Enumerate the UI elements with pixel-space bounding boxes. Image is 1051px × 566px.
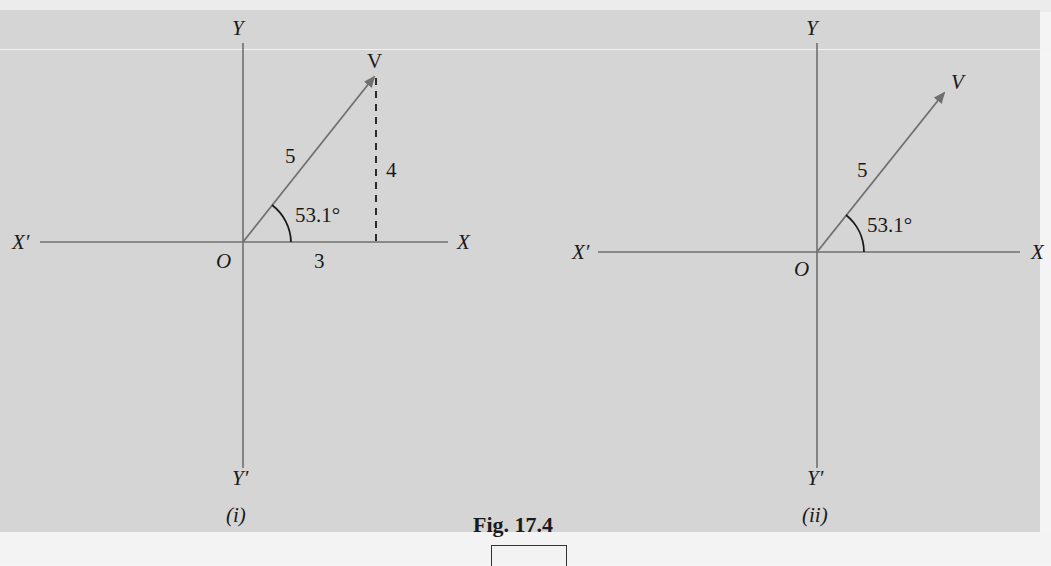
y-axis-label-ii: Y [806,18,818,39]
x-axis-label-ii: X [1031,242,1044,263]
y-axis-label-i: Y [232,18,244,39]
angle-label-i: 53.1° [295,205,340,226]
diagram-i [40,43,448,468]
x-neg-axis-label-i: X′ [12,232,29,253]
angle-arc-i [272,205,291,242]
horizontal-component-label-i: 3 [314,251,325,272]
origin-label-ii: O [794,259,809,280]
y-neg-axis-label-i: Y′ [232,468,248,489]
magnitude-label-ii: 5 [857,160,868,181]
vector-label-ii: V [951,72,964,93]
origin-label-i: O [216,251,231,272]
y-neg-axis-label-ii: Y′ [807,468,823,489]
x-neg-axis-label-ii: X′ [572,242,589,263]
vector-label-i: V [367,51,382,72]
magnitude-label-i: 5 [285,146,296,167]
angle-label-ii: 53.1° [867,215,912,236]
panel-caption-i: (i) [226,505,246,526]
vertical-component-label-i: 4 [386,160,397,181]
x-axis-label-i: X [457,232,470,253]
angle-arc-ii [846,215,864,252]
panel-caption-ii: (ii) [802,505,828,526]
figure-caption: Fig. 17.4 [473,512,553,538]
diagram-ii [598,43,1020,468]
